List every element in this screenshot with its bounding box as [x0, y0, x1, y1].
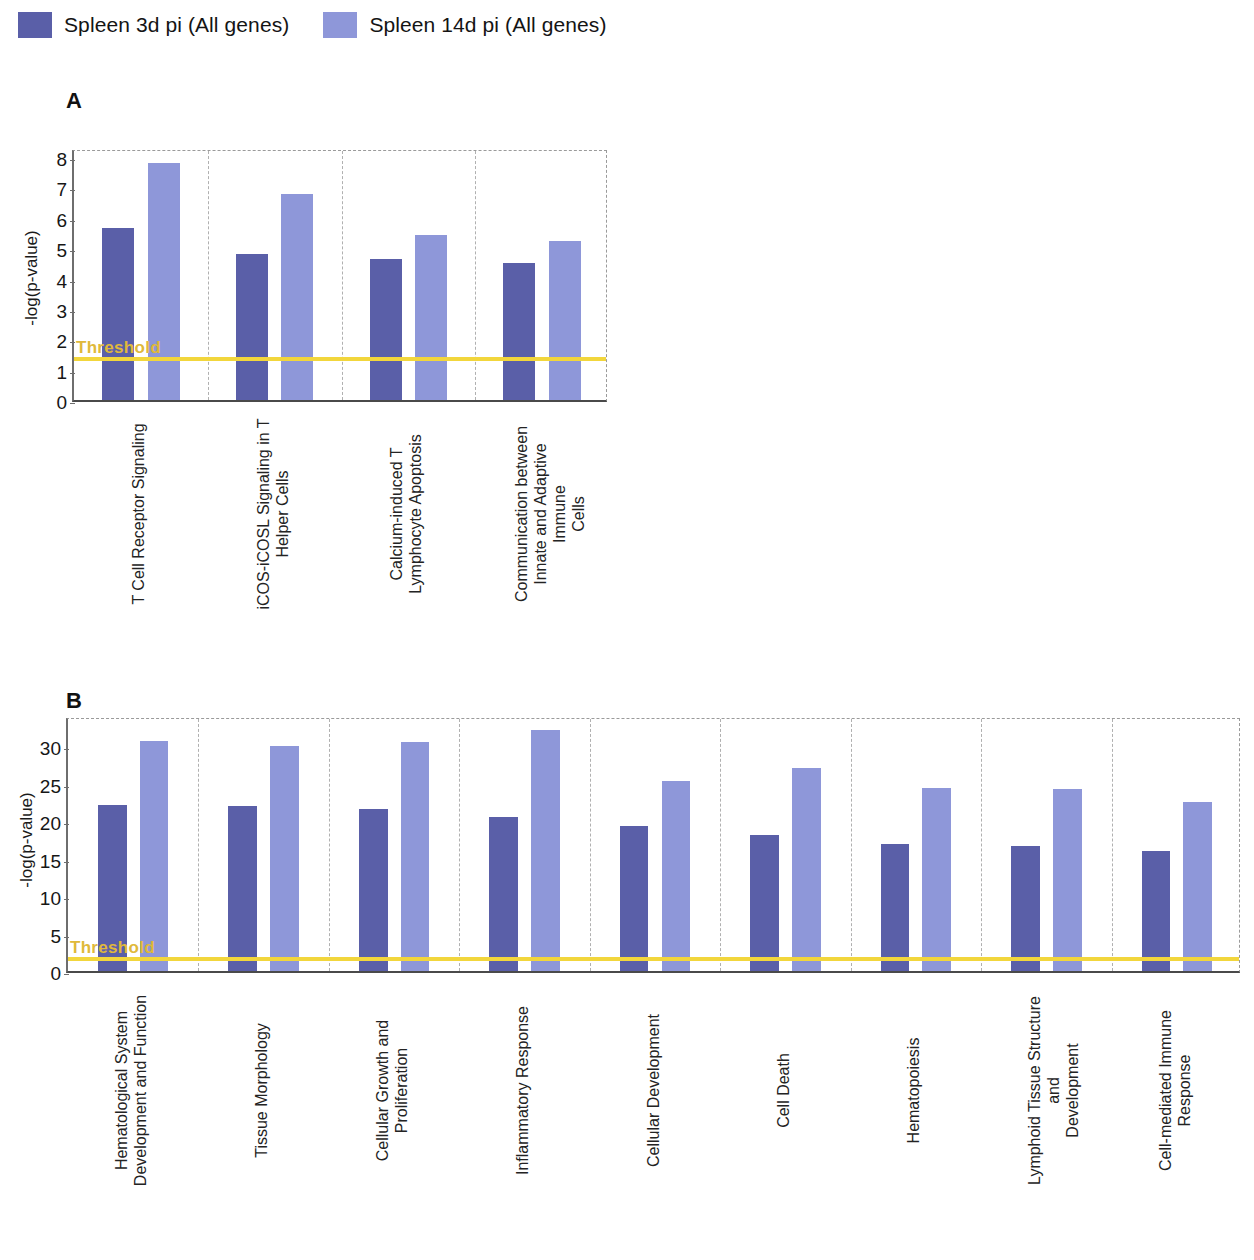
panel-b: B -log(p-value) 051015202530Threshold He… — [0, 640, 1254, 1260]
bar-spleen-14d — [148, 163, 180, 400]
y-axis-tick: 8 — [56, 149, 74, 171]
category-separator-gridline — [342, 151, 343, 400]
bar-spleen-3d — [750, 835, 779, 971]
bar-spleen-3d — [489, 817, 518, 971]
y-axis-tick: 2 — [56, 331, 74, 353]
y-axis-tick: 0 — [50, 963, 68, 985]
x-axis-category-label: Cell-mediated Immune Response — [1156, 983, 1194, 1198]
bar-spleen-3d — [370, 259, 402, 400]
panel-a-letter: A — [66, 88, 82, 114]
category-separator-gridline — [1112, 719, 1113, 971]
y-axis-tick: 30 — [40, 738, 68, 760]
x-axis-category-label: Hematopoiesis — [904, 983, 923, 1198]
bar-spleen-3d — [359, 809, 388, 971]
y-axis-tick: 7 — [56, 179, 74, 201]
x-axis-category-label: Lymphoid Tissue Structure and Developmen… — [1025, 983, 1082, 1198]
y-axis-tick: 20 — [40, 813, 68, 835]
x-axis-category-label: Cellular Development — [644, 983, 663, 1198]
category-separator-gridline — [981, 719, 982, 971]
x-axis-category-label: Communication between Innate and Adaptiv… — [512, 414, 588, 614]
category-separator-gridline — [208, 151, 209, 400]
y-axis-tick: 5 — [56, 240, 74, 262]
bar-spleen-14d — [549, 241, 581, 400]
bar-spleen-14d — [281, 194, 313, 400]
x-axis-category-label: Inflammatory Response — [513, 983, 532, 1198]
threshold-label: Threshold — [76, 338, 161, 358]
bar-spleen-3d — [1142, 851, 1171, 971]
y-axis-tick: 1 — [56, 362, 74, 384]
y-axis-tick: 15 — [40, 851, 68, 873]
x-axis-category-label: Calcium-induced T Lymphocyte Apoptosis — [387, 414, 425, 614]
bar-spleen-3d — [503, 263, 535, 400]
bar-spleen-14d — [1053, 789, 1082, 971]
threshold-label: Threshold — [70, 938, 155, 958]
panel-a-plot-area: 012345678Threshold — [72, 150, 607, 402]
y-axis-tick: 0 — [56, 392, 74, 414]
x-axis-category-label: Hematological System Development and Fun… — [112, 983, 150, 1198]
y-axis-tick: 3 — [56, 301, 74, 323]
category-separator-gridline — [720, 719, 721, 971]
bar-spleen-14d — [401, 742, 430, 971]
x-axis-category-label: Cell Death — [774, 983, 793, 1198]
bar-spleen-3d — [102, 228, 134, 400]
threshold-line — [68, 957, 1239, 961]
bar-spleen-14d — [792, 768, 821, 971]
category-separator-gridline — [475, 151, 476, 400]
bar-spleen-14d — [922, 788, 951, 971]
category-separator-gridline — [851, 719, 852, 971]
bar-spleen-14d — [531, 730, 560, 972]
panel-b-letter: B — [66, 688, 82, 714]
bar-spleen-14d — [415, 235, 447, 400]
bar-spleen-3d — [881, 844, 910, 971]
bar-spleen-3d — [228, 806, 257, 971]
bar-spleen-3d — [620, 826, 649, 971]
bar-spleen-14d — [1183, 802, 1212, 972]
x-axis-category-label: iCOS-iCOSL Signaling in T Helper Cells — [254, 414, 292, 614]
category-separator-gridline — [198, 719, 199, 971]
panel-b-y-axis-title: -log(p-value) — [17, 775, 37, 905]
x-axis-category-label: T Cell Receptor Signaling — [129, 414, 148, 614]
y-axis-tick: 5 — [50, 926, 68, 948]
y-axis-tick: 6 — [56, 210, 74, 232]
bar-spleen-14d — [662, 781, 691, 971]
panel-a-y-axis-title: -log(p-value) — [22, 213, 42, 343]
category-separator-gridline — [459, 719, 460, 971]
x-axis-category-label: Cellular Growth and Proliferation — [373, 983, 411, 1198]
y-axis-tick: 4 — [56, 271, 74, 293]
bar-spleen-3d — [236, 254, 268, 400]
y-axis-tick: 25 — [40, 776, 68, 798]
panel-a: A -log(p-value) 012345678Threshold T Cel… — [0, 0, 1254, 640]
bar-spleen-14d — [270, 746, 299, 971]
bar-spleen-3d — [1011, 846, 1040, 971]
y-axis-tick: 10 — [40, 888, 68, 910]
category-separator-gridline — [590, 719, 591, 971]
x-axis-category-label: Tissue Morphology — [252, 983, 271, 1198]
panel-b-plot-area: 051015202530Threshold — [66, 718, 1240, 973]
bar-spleen-14d — [140, 741, 169, 971]
category-separator-gridline — [329, 719, 330, 971]
